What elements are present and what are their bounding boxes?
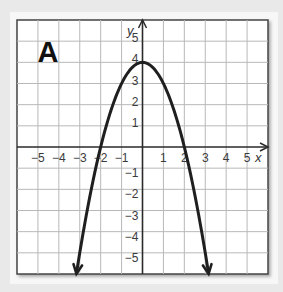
x-tick-label: 5 (244, 151, 251, 165)
parabola-chart: −5−4−3−2−11234554321−1−2−3−4−5 A y x (0, 0, 283, 292)
x-tick-label: −4 (52, 151, 66, 165)
y-tick-label: −5 (125, 251, 139, 265)
y-tick-label: 1 (132, 116, 139, 130)
x-tick-label: 3 (202, 151, 209, 165)
y-tick-label: 3 (132, 74, 139, 88)
y-tick-label: 2 (132, 95, 139, 109)
figure-label: A (38, 36, 59, 68)
x-tick-label: −3 (73, 151, 87, 165)
x-axis-label: x (254, 150, 262, 165)
y-tick-label: −2 (125, 187, 139, 201)
y-tick-label: −3 (125, 209, 139, 223)
x-tick-label: 4 (223, 151, 230, 165)
y-tick-label: −4 (125, 230, 139, 244)
x-tick-label: 1 (160, 151, 167, 165)
x-tick-label: −5 (31, 151, 45, 165)
y-tick-label: −1 (125, 166, 139, 180)
x-tick-label: −1 (115, 151, 129, 165)
